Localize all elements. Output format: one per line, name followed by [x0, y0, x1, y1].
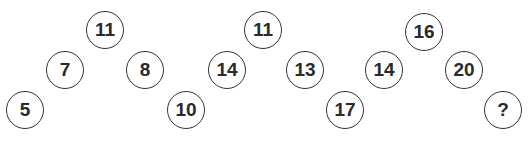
- number-circle-puzzle: 11 7 8 5 10 11 14 13 17 16 14 20 ?: [0, 0, 530, 141]
- circle-left-3: 14: [365, 51, 403, 89]
- circle-right-1: 8: [126, 51, 164, 89]
- circle-unknown-answer: ?: [484, 91, 522, 129]
- circle-right-3: 20: [445, 51, 483, 89]
- circle-top-1: 11: [86, 11, 124, 49]
- circle-top-3: 16: [405, 13, 443, 51]
- circle-left-1: 7: [46, 51, 84, 89]
- circle-bottom-right-2: 17: [326, 91, 364, 129]
- circle-top-2: 11: [244, 11, 282, 49]
- circle-bottom-left-1: 5: [6, 91, 44, 129]
- circle-left-2: 14: [208, 51, 246, 89]
- circle-bottom-right-1: 10: [167, 91, 205, 129]
- circle-right-2: 13: [286, 51, 324, 89]
